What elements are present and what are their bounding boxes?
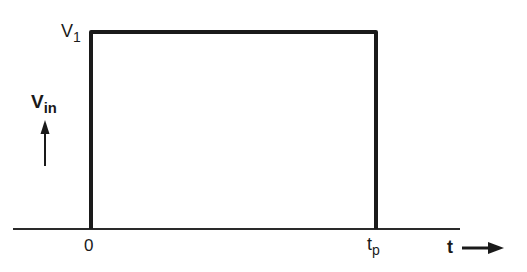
vin-subscript: in — [44, 100, 57, 116]
time-axis-label: t — [447, 238, 453, 256]
tp-tick-label: tp — [367, 235, 380, 253]
v1-level-label: V1 — [61, 22, 81, 40]
tp-subscript: p — [372, 242, 380, 258]
v1-main: V — [61, 21, 73, 41]
pulse-waveform — [91, 32, 376, 229]
vin-up-arrow-icon — [41, 120, 50, 166]
v1-subscript: 1 — [73, 29, 81, 45]
vin-main: V — [31, 91, 44, 112]
time-right-arrow-icon — [462, 242, 504, 254]
zero-tick-label: 0 — [84, 237, 93, 254]
vin-axis-label: Vin — [31, 92, 57, 111]
